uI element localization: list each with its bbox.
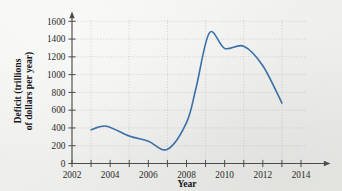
x-tick-label: 2002 xyxy=(63,170,82,180)
deficit-line-chart-figure: 02004006008001000120014001600 2002200420… xyxy=(0,0,342,191)
chart-axes xyxy=(69,12,330,167)
y-tick-label: 1400 xyxy=(47,34,66,44)
chart-svg: 02004006008001000120014001600 2002200420… xyxy=(0,0,342,191)
y-tick-label: 1600 xyxy=(47,17,66,27)
x-tick-label: 2010 xyxy=(215,170,234,180)
x-tick-label: 2012 xyxy=(254,170,273,180)
y-tick-label: 0 xyxy=(61,159,66,169)
x-tick-label: 2004 xyxy=(101,170,120,180)
x-axis-title: Year xyxy=(177,178,197,189)
y-axis-tick-labels: 02004006008001000120014001600 xyxy=(47,17,66,169)
y-axis-title: Deficit (trillions of dollars per year) xyxy=(12,52,35,130)
y-axis-title-line2: of dollars per year) xyxy=(23,52,35,130)
x-tick-label: 2006 xyxy=(139,170,158,180)
y-tick-label: 1000 xyxy=(47,70,66,80)
y-tick-label: 400 xyxy=(52,123,66,133)
deficit-data-line xyxy=(91,32,282,150)
vertical-gridlines xyxy=(91,18,282,164)
y-tick-label: 1200 xyxy=(47,52,66,62)
y-axis-arrow xyxy=(69,12,74,19)
x-tick-label: 2014 xyxy=(292,170,311,180)
y-tick-label: 200 xyxy=(52,141,66,151)
y-tick-label: 600 xyxy=(52,105,66,115)
y-tick-label: 800 xyxy=(52,88,66,98)
x-axis-arrow xyxy=(324,161,331,166)
